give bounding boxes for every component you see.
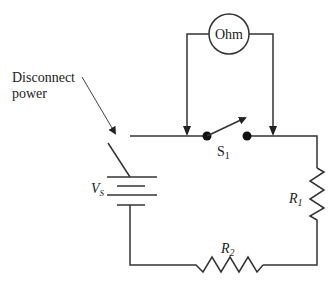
ohmmeter-label: Ohm	[215, 27, 243, 42]
switch-s1: S1	[203, 118, 252, 161]
resistor-r2: R2	[130, 205, 263, 272]
disconnect-label-line2: power	[12, 86, 47, 101]
switch-s1-label: S1	[217, 144, 230, 161]
disconnect-switch-lever	[108, 143, 130, 177]
resistor-r1-label: R1	[288, 191, 303, 208]
resistor-r1: R1	[263, 168, 324, 265]
resistor-r2-label: R2	[220, 241, 235, 258]
ohmmeter: Ohm	[209, 14, 249, 54]
disconnect-label-line1: Disconnect	[12, 70, 75, 85]
circuit-diagram: Ohm S1 R1 R2 VS Disconnect power	[0, 0, 336, 286]
disconnect-annotation: Disconnect power	[12, 70, 115, 133]
top-wire-right	[247, 136, 317, 168]
battery-vs: VS	[91, 177, 157, 205]
battery-vs-label: VS	[91, 181, 105, 198]
meter-leads	[187, 34, 273, 134]
